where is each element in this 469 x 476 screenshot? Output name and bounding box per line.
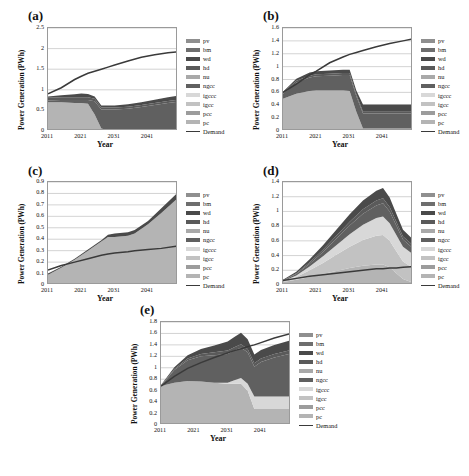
legend-item-pc[interactable]: pc — [186, 118, 224, 127]
legend-item-pcc[interactable]: pcc — [186, 263, 224, 272]
legend-item-hd[interactable]: hd — [186, 63, 224, 72]
legend-item-igccc[interactable]: igccc — [299, 385, 337, 394]
x-axis-title-e: Year — [188, 434, 248, 443]
legend-item-ngcc[interactable]: ngcc — [421, 235, 459, 244]
legend-item-wd[interactable]: wd — [421, 208, 459, 217]
legend-item-nu[interactable]: nu — [299, 366, 337, 375]
legend-swatch-pcc — [421, 265, 435, 269]
y-tick-d-5: 1 — [258, 206, 279, 213]
y-tick-d-7: 1.4 — [258, 177, 279, 184]
y-tick-a-2: 1 — [23, 85, 44, 92]
legend-item-igcc[interactable]: igcc — [421, 254, 459, 263]
legend-item-hd[interactable]: hd — [421, 217, 459, 226]
legend-item-Demand[interactable]: Demand — [299, 421, 337, 430]
legend-item-bm[interactable]: bm — [421, 45, 459, 54]
legend-item-pv[interactable]: pv — [299, 330, 337, 339]
legend-item-ngcc[interactable]: ngcc — [421, 81, 459, 90]
legend-item-pcc[interactable]: pcc — [421, 263, 459, 272]
legend-item-igccc[interactable]: igccc — [186, 91, 224, 100]
y-tick-c-5: 0.5 — [23, 223, 44, 230]
legend-label-wd: wd — [438, 208, 446, 217]
legend-item-pc[interactable]: pc — [421, 272, 459, 281]
legend-item-Demand[interactable]: Demand — [186, 127, 224, 136]
legend-label-bm: bm — [203, 199, 211, 208]
legend-swatch-igccc — [186, 247, 200, 251]
legend-item-nu[interactable]: nu — [186, 226, 224, 235]
x-tick-b-1: 2021 — [301, 132, 329, 139]
legend-item-nu[interactable]: nu — [421, 72, 459, 81]
legend-item-igccc[interactable]: igccc — [421, 245, 459, 254]
y-tick-e-9: 1.8 — [136, 317, 157, 324]
y-tick-a-5: 2.5 — [23, 23, 44, 30]
x-tick-a-0: 2011 — [33, 132, 61, 139]
legend-item-pcc[interactable]: pcc — [299, 403, 337, 412]
legend-item-igcc[interactable]: igcc — [421, 100, 459, 109]
y-tick-b-6: 1.2 — [258, 49, 279, 56]
legend-item-igccc[interactable]: igccc — [186, 245, 224, 254]
legend-item-wd[interactable]: wd — [421, 54, 459, 63]
legend-label-nu: nu — [203, 72, 209, 81]
legend-swatch-wd — [421, 211, 435, 215]
legend-swatch-igcc — [186, 256, 200, 260]
x-tick-b-3: 2041 — [368, 132, 396, 139]
legend-swatch-hd — [421, 220, 435, 224]
legend-swatch-igccc — [299, 387, 313, 391]
legend-label-pv: pv — [438, 190, 444, 199]
demand-line — [48, 52, 177, 94]
legend-swatch-wd — [186, 211, 200, 215]
legend-item-wd[interactable]: wd — [299, 348, 337, 357]
legend-item-wd[interactable]: wd — [186, 54, 224, 63]
legend-item-bm[interactable]: bm — [186, 45, 224, 54]
x-tick-e-2: 2031 — [213, 426, 241, 433]
x-axis-title-b: Year — [310, 140, 370, 149]
legend-item-pv[interactable]: pv — [421, 190, 459, 199]
legend-item-igccc[interactable]: igccc — [421, 91, 459, 100]
legend-item-pc[interactable]: pc — [186, 272, 224, 281]
legend-item-pv[interactable]: pv — [421, 36, 459, 45]
legend-item-ngcc[interactable]: ngcc — [299, 375, 337, 384]
legend-item-ngcc[interactable]: ngcc — [186, 81, 224, 90]
legend-item-pcc[interactable]: pcc — [421, 109, 459, 118]
legend-item-pv[interactable]: pv — [186, 36, 224, 45]
legend-label-hd: hd — [438, 217, 444, 226]
legend-item-Demand[interactable]: Demand — [421, 127, 459, 136]
legend-swatch-pc — [186, 120, 200, 124]
legend-item-hd[interactable]: hd — [421, 63, 459, 72]
legend-item-pc[interactable]: pc — [299, 412, 337, 421]
legend-label-igcc: igcc — [316, 394, 327, 403]
legend-item-Demand[interactable]: Demand — [421, 281, 459, 290]
legend-item-wd[interactable]: wd — [186, 208, 224, 217]
legend-d: pvbmwdhdnungccigcccigccpccpcDemand — [421, 190, 459, 290]
x-tick-c-1: 2021 — [66, 286, 94, 293]
legend-label-pcc: pcc — [203, 109, 212, 118]
legend-swatch-hd — [186, 66, 200, 70]
legend-swatch-nu — [299, 369, 313, 373]
legend-label-bm: bm — [316, 339, 324, 348]
legend-label-wd: wd — [438, 54, 446, 63]
legend-item-bm[interactable]: bm — [299, 339, 337, 348]
x-tick-d-0: 2011 — [268, 286, 296, 293]
legend-item-igcc[interactable]: igcc — [186, 254, 224, 263]
legend-item-igcc[interactable]: igcc — [299, 394, 337, 403]
legend-swatch-pv — [421, 193, 435, 197]
y-tick-b-1: 0.2 — [258, 113, 279, 120]
legend-item-bm[interactable]: bm — [186, 199, 224, 208]
legend-label-igcc: igcc — [203, 254, 214, 263]
x-tick-e-1: 2021 — [179, 426, 207, 433]
legend-item-hd[interactable]: hd — [186, 217, 224, 226]
legend-item-hd[interactable]: hd — [299, 357, 337, 366]
legend-item-pv[interactable]: pv — [186, 190, 224, 199]
legend-item-nu[interactable]: nu — [186, 72, 224, 81]
legend-item-ngcc[interactable]: ngcc — [186, 235, 224, 244]
legend-item-nu[interactable]: nu — [421, 226, 459, 235]
legend-item-igcc[interactable]: igcc — [186, 100, 224, 109]
legend-swatch-pv — [186, 193, 200, 197]
legend-swatch-pc — [299, 414, 313, 418]
legend-item-pcc[interactable]: pcc — [186, 109, 224, 118]
legend-item-Demand[interactable]: Demand — [186, 281, 224, 290]
x-tick-d-2: 2031 — [335, 286, 363, 293]
legend-item-pc[interactable]: pc — [421, 118, 459, 127]
plot-area-c — [47, 181, 177, 284]
legend-item-bm[interactable]: bm — [421, 199, 459, 208]
y-tick-d-4: 0.8 — [258, 221, 279, 228]
